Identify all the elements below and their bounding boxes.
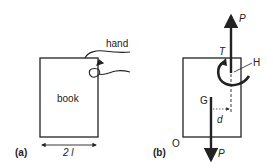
torque-arrow-icon	[218, 62, 249, 85]
force-top-label: P	[239, 13, 246, 24]
panel-a-label: (a)	[15, 147, 27, 158]
width-label: 2 l	[62, 147, 74, 158]
hand-icon	[85, 51, 130, 77]
panel-a: book hand 2 l (a)	[15, 38, 130, 158]
torque-label: T	[219, 46, 226, 57]
panel-b: P T H G P d O (b)	[153, 13, 260, 160]
center-of-gravity-label: G	[200, 95, 208, 106]
origin-label: O	[172, 138, 180, 149]
diagram-canvas: book hand 2 l (a) P T H G P d O	[0, 0, 273, 168]
h-leader-line	[234, 63, 252, 72]
distance-label: d	[217, 114, 223, 125]
hand-label: hand	[106, 38, 128, 49]
force-bottom-label: P	[218, 148, 225, 159]
book-label: book	[57, 93, 80, 104]
panel-b-label: (b)	[153, 147, 166, 158]
hand-point-label: H	[253, 57, 260, 68]
